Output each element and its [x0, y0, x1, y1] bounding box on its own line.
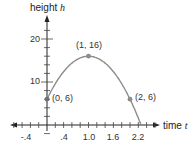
x-tick-label-neg04: -.4: [21, 132, 32, 142]
point-label-2-6: (2, 6): [135, 92, 156, 102]
up-arrow-icon: [45, 15, 50, 22]
x-axis: [10, 122, 160, 128]
point-0-6: [45, 97, 50, 102]
height-curve: [47, 56, 141, 125]
point-1-16: [86, 54, 91, 59]
right-arrow-icon: [153, 123, 160, 128]
y-axis-title: height h: [30, 2, 65, 13]
point-2-6: [128, 97, 133, 102]
x-axis-title: time t: [163, 120, 188, 131]
x-tick-label-10: 1.0: [83, 132, 96, 142]
y-tick-label-20: 20: [30, 34, 40, 44]
point-label-1-16: (1, 16): [76, 40, 102, 50]
x-tick-label-16: 1.6: [107, 132, 120, 142]
x-tick-label-04: .4: [60, 132, 68, 142]
y-axis: [41, 15, 53, 134]
y-tick-label-10: 10: [30, 76, 40, 86]
chart: (0, 6) (1, 16) (2, 6) 20 10 -.4 .4 1.0 1…: [0, 0, 190, 145]
x-tick-label-22: 2.2: [132, 132, 145, 142]
point-label-0-6: (0, 6): [52, 93, 73, 103]
